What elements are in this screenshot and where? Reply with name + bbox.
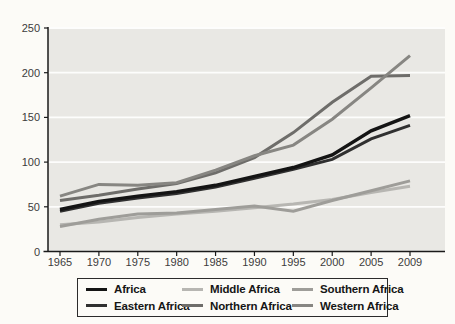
x-tick-label: 1975 bbox=[126, 256, 150, 268]
legend-label: Middle Africa bbox=[210, 283, 280, 295]
y-tick-label: 0 bbox=[34, 246, 40, 258]
legend-item-middle-africa: Middle Africa bbox=[182, 283, 292, 295]
legend-swatch-western-africa bbox=[292, 304, 313, 307]
legend-swatch-africa bbox=[86, 288, 107, 291]
legend-label: Northern Africa bbox=[210, 300, 292, 312]
legend-label: Southern Africa bbox=[320, 283, 404, 295]
legend-label: Eastern Africa bbox=[114, 300, 189, 312]
legend-label: Western Africa bbox=[320, 300, 398, 312]
x-tick-label: 1970 bbox=[87, 256, 111, 268]
legend-item-northern-africa: Northern Africa bbox=[182, 300, 292, 312]
legend-swatch-eastern-africa bbox=[86, 304, 107, 307]
y-tick-label: 100 bbox=[22, 156, 40, 168]
x-tick-label: 1965 bbox=[48, 256, 72, 268]
legend-swatch-northern-africa bbox=[182, 304, 203, 307]
y-tick-label: 200 bbox=[22, 67, 40, 79]
legend-label: Africa bbox=[114, 283, 146, 295]
line-chart: 1965197019751980198519901995200020052009… bbox=[0, 0, 455, 324]
chart-legend: AfricaEastern AfricaMiddle AfricaNorther… bbox=[77, 278, 388, 317]
x-tick-label: 1980 bbox=[164, 256, 188, 268]
x-tick-label: 1985 bbox=[203, 256, 227, 268]
chart-figure: 1965197019751980198519901995200020052009… bbox=[0, 0, 455, 324]
legend-item-africa: Africa bbox=[86, 283, 182, 295]
legend-swatch-southern-africa bbox=[292, 288, 313, 291]
x-tick-label: 1995 bbox=[281, 256, 305, 268]
x-tick-label: 1990 bbox=[242, 256, 266, 268]
x-tick-label: 2009 bbox=[398, 256, 422, 268]
legend-item-western-africa: Western Africa bbox=[292, 300, 404, 312]
legend-item-southern-africa: Southern Africa bbox=[292, 283, 404, 295]
x-tick-label: 2000 bbox=[320, 256, 344, 268]
x-tick-label: 2005 bbox=[359, 256, 383, 268]
y-tick-label: 50 bbox=[28, 201, 40, 213]
y-tick-label: 250 bbox=[22, 22, 40, 34]
legend-swatch-middle-africa bbox=[182, 288, 203, 291]
legend-item-eastern-africa: Eastern Africa bbox=[86, 300, 182, 312]
y-tick-label: 150 bbox=[22, 111, 40, 123]
